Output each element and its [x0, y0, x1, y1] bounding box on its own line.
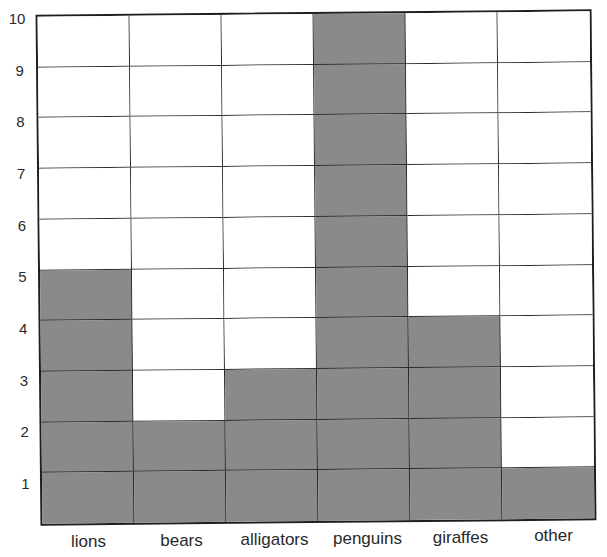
x-tick-label-bears: bears — [135, 531, 228, 551]
grid-cell-other-7 — [499, 163, 591, 215]
grid-cell-penguins-10 — [314, 13, 406, 65]
grid-cell-lions-7 — [39, 168, 131, 220]
grid-cell-giraffes-2 — [409, 418, 501, 470]
x-tick-label-giraffes: giraffes — [414, 528, 507, 548]
grid-cell-other-9 — [498, 62, 590, 114]
grid-cell-penguins-7 — [315, 165, 407, 217]
grid-cell-alligators-3 — [225, 369, 317, 421]
x-tick-label-other: other — [507, 526, 600, 546]
grid-cell-lions-8 — [39, 117, 131, 169]
grid-cell-penguins-3 — [317, 368, 409, 420]
grid-cell-alligators-4 — [224, 318, 316, 370]
grid-cell-alligators-2 — [225, 420, 317, 472]
grid-cell-penguins-8 — [315, 115, 407, 167]
grid-cell-giraffes-4 — [408, 316, 500, 368]
grid-cell-lions-5 — [40, 269, 132, 321]
y-tick-label: 5 — [8, 268, 38, 285]
grid-cell-alligators-1 — [226, 470, 318, 522]
grid-cell-penguins-1 — [318, 469, 410, 521]
grid-cell-giraffes-3 — [409, 367, 501, 419]
grid-cell-giraffes-9 — [406, 63, 498, 115]
grid-cell-bears-10 — [130, 15, 222, 67]
plot-area — [36, 9, 597, 525]
grid-cell-bears-1 — [134, 471, 226, 523]
grid-cell-alligators-5 — [224, 268, 316, 320]
grid-cell-other-1 — [502, 468, 594, 520]
x-tick-label-lions: lions — [42, 532, 135, 552]
grid-cell-lions-10 — [38, 16, 130, 68]
y-tick-label: 2 — [10, 423, 40, 440]
grid-cell-penguins-5 — [316, 267, 408, 319]
grid-cell-bears-6 — [132, 218, 224, 270]
grid-cell-alligators-9 — [222, 65, 314, 117]
grid-cell-lions-2 — [41, 421, 133, 473]
grid-cell-bears-3 — [133, 370, 225, 422]
y-tick-label: 9 — [5, 62, 35, 79]
grid-cell-giraffes-5 — [408, 266, 500, 318]
grid-cell-lions-4 — [40, 320, 132, 372]
grid-cell-bears-5 — [132, 268, 224, 320]
grid-cell-other-5 — [500, 265, 592, 317]
grid-cell-alligators-10 — [222, 14, 314, 66]
grid-cell-giraffes-6 — [408, 215, 500, 267]
grid-cell-other-4 — [500, 316, 592, 368]
grid-cell-other-2 — [501, 417, 593, 469]
x-tick-label-penguins: penguins — [321, 529, 414, 549]
grid-cell-bears-8 — [131, 116, 223, 168]
grid-cell-other-10 — [498, 11, 590, 63]
grid-cell-penguins-2 — [317, 419, 409, 471]
y-tick-label: 3 — [9, 372, 39, 389]
grid-cell-alligators-8 — [223, 115, 315, 167]
grid-cell-lions-3 — [41, 371, 133, 423]
chart-title-cropped — [150, 0, 410, 4]
grid-cell-bears-4 — [132, 319, 224, 371]
y-tick-label: 6 — [7, 217, 37, 234]
y-tick-label: 1 — [10, 475, 40, 492]
bar-grid — [36, 9, 597, 525]
grid-cell-alligators-6 — [224, 217, 316, 269]
grid-cell-lions-1 — [42, 472, 134, 524]
y-tick-label: 8 — [5, 113, 35, 130]
grid-cell-bears-7 — [131, 167, 223, 219]
y-tick-label: 7 — [6, 165, 36, 182]
grid-cell-lions-6 — [40, 219, 132, 271]
grid-cell-giraffes-1 — [410, 469, 502, 521]
grid-cell-penguins-4 — [316, 317, 408, 369]
grid-cell-penguins-6 — [316, 216, 408, 268]
grid-cell-penguins-9 — [314, 64, 406, 116]
grid-cell-lions-9 — [38, 66, 130, 118]
grid-cell-giraffes-7 — [407, 164, 499, 216]
grid-cell-bears-9 — [130, 66, 222, 118]
grid-cell-bears-2 — [133, 420, 225, 472]
y-tick-label: 4 — [8, 320, 38, 337]
x-tick-label-alligators: alligators — [228, 530, 321, 550]
grid-cell-giraffes-8 — [407, 114, 499, 166]
grid-cell-other-8 — [499, 113, 591, 165]
grid-cell-alligators-7 — [223, 166, 315, 218]
grid-cell-giraffes-10 — [406, 12, 498, 64]
y-tick-label: 10 — [2, 10, 32, 27]
grid-cell-other-3 — [501, 366, 593, 418]
grid-cell-other-6 — [500, 214, 592, 266]
